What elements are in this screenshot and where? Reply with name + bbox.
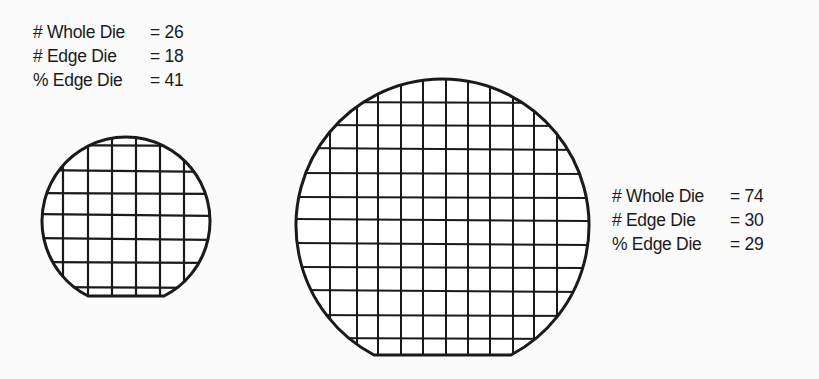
wafer-diagrams: [0, 0, 819, 379]
small-wafer: [35, 120, 220, 300]
large-wafer: [290, 60, 600, 360]
